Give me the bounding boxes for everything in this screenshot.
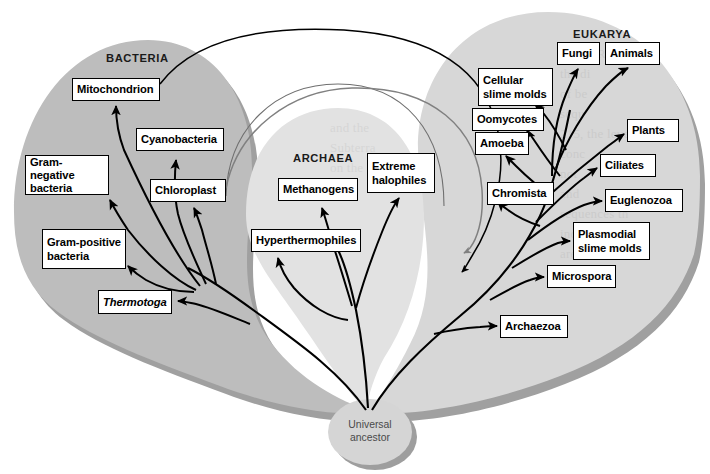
taxon-box-amoeba[interactable]: Amoeba: [475, 132, 529, 155]
taxon-box-plasmodial-slime-molds[interactable]: Plasmodial slime molds: [573, 222, 650, 260]
taxon-box-thermotoga[interactable]: Thermotoga: [98, 290, 172, 314]
taxon-box-gram-positive-bacteria[interactable]: Gram-positive bacteria: [42, 229, 126, 269]
domain-label-archaea: ARCHAEA: [293, 152, 353, 164]
taxon-box-fungi[interactable]: Fungi: [557, 42, 600, 65]
taxon-box-chromista[interactable]: Chromista: [487, 182, 554, 205]
taxon-box-euglenozoa[interactable]: Euglenozoa: [605, 189, 683, 212]
taxon-box-microspora[interactable]: Microspora: [547, 265, 616, 288]
taxon-box-chloroplast[interactable]: Chloroplast: [150, 179, 226, 202]
taxon-box-mitochondrion[interactable]: Mitochondrion: [72, 78, 160, 101]
taxon-box-archaezoa[interactable]: Archaezoa: [500, 315, 568, 338]
taxon-box-methanogens[interactable]: Methanogens: [278, 178, 358, 201]
taxon-box-cyanobacteria[interactable]: Cyanobacteria: [136, 128, 224, 151]
taxon-box-hyperthermophiles[interactable]: Hyperthermophiles: [251, 229, 361, 252]
domain-shapes: [14, 12, 705, 421]
domain-label-bacteria: BACTERIA: [106, 52, 169, 64]
universal-ancestor-label: Universal ancestor: [325, 418, 415, 445]
taxon-box-animals[interactable]: Animals: [605, 42, 660, 65]
taxon-box-ciliates[interactable]: Ciliates: [600, 154, 656, 177]
taxon-box-cellular-slime-molds[interactable]: Cellular slime molds: [478, 68, 553, 106]
phylogenetic-tree-figure: EUKARYA the di of be sequ 215, the level…: [0, 0, 710, 474]
taxon-box-plants[interactable]: Plants: [627, 119, 679, 142]
taxon-box-gram-negative-bacteria[interactable]: Gram-negative bacteria: [25, 155, 109, 195]
taxon-box-oomycotes[interactable]: Oomycotes: [472, 108, 544, 131]
taxon-box-extreme-halophiles[interactable]: Extreme halophiles: [367, 153, 435, 193]
domain-label-eukarya: EUKARYA: [573, 28, 631, 40]
